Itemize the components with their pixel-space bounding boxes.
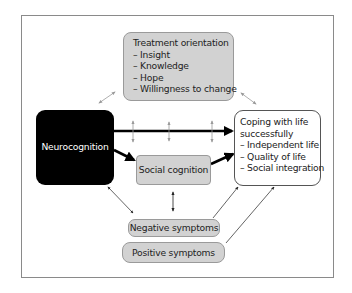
- coping-title-line1: Coping with life: [240, 116, 320, 128]
- arrow-negative-to-coping: [213, 187, 238, 218]
- coping-title-line2: successfully: [240, 128, 320, 140]
- positive-symptoms-label: Positive symptoms: [132, 247, 215, 259]
- double-arrow-neuro-negative: [108, 187, 133, 213]
- arrow-neuro-to-social: [114, 150, 134, 160]
- neurocognition-box: Neurocognition: [36, 110, 114, 185]
- arrow-social-to-coping: [211, 154, 233, 164]
- treatment-item-knowledge: – Knowledge: [133, 60, 233, 72]
- treatment-item-willingness: – Willingness to change: [133, 83, 233, 95]
- treatment-orientation-box: Treatment orientation – Insight – Knowle…: [123, 32, 234, 101]
- negative-symptoms-box: Negative symptoms: [128, 219, 220, 237]
- positive-symptoms-box: Positive symptoms: [122, 242, 225, 263]
- arrow-positive-to-coping: [226, 187, 274, 243]
- grey-double-arrow-treat-neuro: [99, 92, 115, 103]
- social-cognition-label: Social cognition: [139, 164, 208, 176]
- neurocognition-label: Neurocognition: [41, 141, 108, 153]
- social-cognition-box: Social cognition: [136, 155, 211, 185]
- treatment-item-hope: – Hope: [133, 72, 233, 84]
- negative-symptoms-label: Negative symptoms: [130, 222, 219, 234]
- coping-with-life-box: Coping with life successfully – Independ…: [234, 110, 321, 186]
- coping-item-quality-of-life: – Quality of life: [240, 151, 320, 163]
- treatment-title: Treatment orientation: [133, 37, 233, 49]
- grey-double-arrow-treat-coping: [241, 93, 256, 104]
- treatment-item-insight: – Insight: [133, 49, 233, 61]
- coping-item-social-integration: – Social integration: [240, 162, 320, 174]
- coping-item-independent-life: – Independent life: [240, 139, 320, 151]
